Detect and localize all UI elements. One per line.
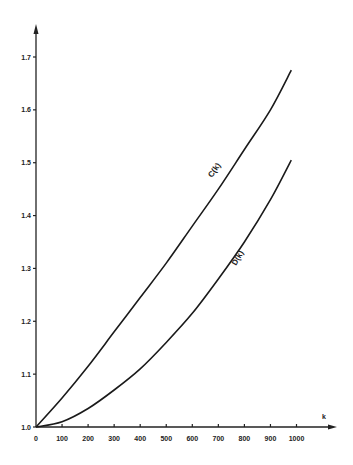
label-c-k: C(k) xyxy=(206,161,222,179)
y-axis-arrow-icon xyxy=(34,24,39,34)
x-tick-label: 400 xyxy=(134,435,146,442)
x-tick-label: 800 xyxy=(239,435,251,442)
axis-ticks: 1.01.11.21.31.41.51.61.70100200300400500… xyxy=(21,54,304,443)
y-tick-label: 1.5 xyxy=(21,159,31,166)
x-tick-label: 300 xyxy=(108,435,120,442)
curve-c-k xyxy=(36,70,291,427)
y-tick-label: 1.7 xyxy=(21,54,31,61)
x-tick-label: 700 xyxy=(213,435,225,442)
y-tick-label: 1.4 xyxy=(21,212,31,219)
x-axis-arrow-icon xyxy=(328,425,337,430)
y-tick-label: 1.0 xyxy=(21,424,31,431)
x-tick-label: 900 xyxy=(265,435,277,442)
x-tick-label: 1000 xyxy=(289,435,305,442)
axes: k xyxy=(34,24,338,430)
y-tick-label: 1.2 xyxy=(21,318,31,325)
y-tick-label: 1.6 xyxy=(21,106,31,113)
y-tick-label: 1.1 xyxy=(21,371,31,378)
x-tick-label: 100 xyxy=(56,435,68,442)
x-tick-label: 600 xyxy=(186,435,198,442)
y-tick-label: 1.3 xyxy=(21,265,31,272)
x-tick-label: 200 xyxy=(82,435,94,442)
label-d-k: D(k) xyxy=(230,249,246,267)
line-chart: k 1.01.11.21.31.41.51.61.701002003004005… xyxy=(0,0,353,465)
x-axis-label: k xyxy=(322,413,326,420)
curves xyxy=(36,70,291,427)
x-tick-label: 0 xyxy=(34,435,38,442)
curve-d-k xyxy=(36,160,291,427)
x-tick-label: 500 xyxy=(160,435,172,442)
